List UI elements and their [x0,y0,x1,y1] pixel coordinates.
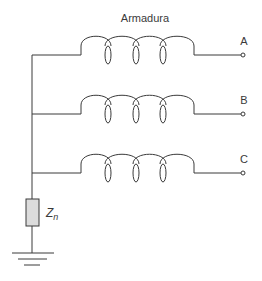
phase-a-winding: A [32,35,248,64]
coil-loop [105,164,111,182]
coil-arches [81,95,194,114]
coil-loop [133,164,139,182]
coil-loop [133,46,139,64]
terminal-c [241,171,245,175]
impedance-subscript: n [53,212,58,222]
terminal-b [241,112,245,116]
coil-loop [133,105,139,123]
coil-loop [160,164,166,182]
coil-loop [160,105,166,123]
terminal-label-a: A [240,35,248,47]
armature-circuit-diagram: Armadura ABC Zn [0,0,262,281]
ground-icon [12,253,54,265]
coil-arches [81,36,194,55]
coil-loop [160,46,166,64]
coil-loop [105,46,111,64]
coil-loop [105,105,111,123]
phase-c-winding: C [32,153,248,182]
neutral-impedance [26,199,39,226]
coil-arches [81,154,194,173]
terminal-a [241,53,245,57]
phase-b-winding: B [32,94,248,123]
terminal-label-c: C [240,153,248,165]
terminal-label-b: B [240,94,247,106]
impedance-label: Zn [45,206,58,222]
armature-title: Armadura [121,12,170,24]
